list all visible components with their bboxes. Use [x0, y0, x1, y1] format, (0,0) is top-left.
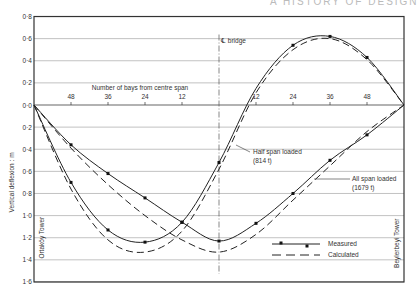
measured-point [70, 143, 73, 146]
x-tick-label: 48 [67, 93, 75, 100]
deflection-chart: 0·80·60·40·20·00·20·40·60·81·01·21·41·64… [0, 0, 418, 295]
centreline-label: ℄ bridge [220, 37, 246, 45]
y-tick-label: 1·2 [23, 234, 33, 241]
x-tick-label: 12 [178, 93, 186, 100]
legend-measured-label: Measured [328, 240, 357, 247]
measured-point [366, 133, 369, 136]
measured-point [329, 159, 332, 162]
y-axis-label: Vertical deflexion : m [8, 152, 15, 212]
measured-point [329, 35, 332, 38]
x-tick-label: 48 [363, 93, 371, 100]
y-tick-label: 1·0 [23, 212, 33, 219]
y-tick-label: 0·2 [23, 124, 33, 131]
x-tick-label: 24 [141, 93, 149, 100]
all-span-load: (1679 t) [352, 184, 374, 192]
x-axis-label: Number of bays from centre span [92, 84, 189, 92]
all-span-label: All span loaded [352, 175, 397, 183]
x-tick-label: 24 [289, 93, 297, 100]
y-tick-label: 1·4 [23, 256, 33, 263]
y-tick-label: 0·6 [23, 168, 33, 175]
y-tick-label: 0·0 [23, 102, 33, 109]
y-tick-label: 1·6 [23, 278, 33, 285]
legend-marker [306, 245, 309, 248]
legend-calculated-label: Calculated [328, 251, 359, 258]
y-tick-label: 0·8 [23, 13, 33, 20]
measured-point [181, 221, 184, 224]
annotations: ℄ bridgeOrtaköy TowerBeylerbeyi TowerHal… [38, 37, 401, 268]
measured-point [70, 181, 73, 184]
y-tick-label: 0·6 [23, 35, 33, 42]
y-tick-label: 0·4 [23, 146, 33, 153]
x-tick-label: 36 [104, 93, 112, 100]
measured-point [218, 161, 221, 164]
legend: MeasuredCalculated [272, 240, 359, 258]
half-span-label: Half span loaded [253, 148, 302, 156]
y-tick-label: 0·8 [23, 190, 33, 197]
measured-point [144, 196, 147, 199]
left-tower-label: Ortaköy Tower [38, 216, 46, 259]
y-tick-label: 0·4 [23, 57, 33, 64]
measured-point [366, 56, 369, 59]
measured-point [107, 228, 110, 231]
measured-point [255, 222, 258, 225]
right-tower-label: Beylerbeyi Tower [393, 218, 401, 268]
measured-point [218, 240, 221, 243]
x-tick-label: 36 [326, 93, 334, 100]
measured-point [107, 172, 110, 175]
measured-point [292, 192, 295, 195]
measured-point [144, 241, 147, 244]
half-span-leader [236, 145, 250, 152]
half-span-load: (814 t) [253, 157, 272, 165]
y-tick-label: 0·2 [23, 79, 33, 86]
legend-marker [280, 242, 283, 245]
measured-point [292, 44, 295, 47]
